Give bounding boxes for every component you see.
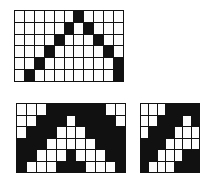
grid-cell [86,104,95,115]
grid-cell [15,35,24,46]
grid-cell [15,46,24,57]
grid-cell [141,139,148,150]
grid-cell [166,116,173,127]
grid-cell [55,23,64,34]
grid-cell [114,58,123,69]
grid-cell [158,150,165,161]
grid-cell [116,162,125,173]
grid-cell [141,116,148,127]
grid-cell [175,116,182,127]
grid-cell [67,150,76,161]
grid-cell [55,35,64,46]
grid-cell [45,58,54,69]
grid-cell [37,150,46,161]
grid-cell [192,162,199,173]
grid-cell [45,35,54,46]
grid-cell [74,46,83,57]
grid-cell [37,116,46,127]
grid-cell [104,11,113,22]
grid-cell [25,46,34,57]
pixel-grid-figure [0,0,213,183]
grid-cell [175,162,182,173]
grid-cell [67,104,76,115]
grid-cell [104,35,113,46]
grid-cell [84,58,93,69]
grid-cell [175,104,182,115]
grid-cell [76,127,85,138]
grid-cell [104,58,113,69]
grid-cell [65,35,74,46]
grid-cell [141,162,148,173]
grid-cell [35,46,44,57]
grid-cell [57,150,66,161]
grid-cell [67,162,76,173]
grid-cell [47,116,56,127]
grid-cell [183,127,190,138]
grid-cell [27,150,36,161]
grid-cell [192,150,199,161]
grid-cell [67,116,76,127]
grid-cell [57,116,66,127]
grid-cell [45,23,54,34]
grid-cell [65,58,74,69]
grid-cell [35,35,44,46]
grid-cell [104,46,113,57]
grid-cell [45,46,54,57]
grid-cell [114,46,123,57]
grid-cell [86,162,95,173]
grid-cell [94,70,103,81]
grid-cell [25,58,34,69]
grid-cell [76,139,85,150]
grid-cell [183,150,190,161]
grid-cell [37,127,46,138]
grid-cell [149,139,156,150]
grid-cell [149,162,156,173]
grid-cell [74,58,83,69]
grid-cell [35,11,44,22]
grid-cell [94,23,103,34]
grid-cell [141,104,148,115]
grid-cell [35,70,44,81]
grid-cell [84,11,93,22]
grid-cell [55,46,64,57]
grid-cell [94,11,103,22]
grid-cell [166,104,173,115]
grid-cell [76,104,85,115]
grid-cell [149,150,156,161]
grid-cell [106,104,115,115]
grid-cell [116,150,125,161]
grid-cell [57,127,66,138]
grid-cell [17,150,26,161]
grid-cell [149,116,156,127]
grid-cell [175,139,182,150]
grid-cell [74,23,83,34]
grid-cell [175,150,182,161]
grid-cell [166,139,173,150]
grid-cell [47,104,56,115]
grid-cell [67,139,76,150]
grid-cell [17,162,26,173]
grid-cell [76,162,85,173]
grid-cell [86,116,95,127]
grid-cell [183,104,190,115]
grid-cell [74,70,83,81]
grid-cell [86,150,95,161]
grid-cell [47,127,56,138]
grid-cell [158,116,165,127]
grid-cell [17,127,26,138]
grid-cell [104,23,113,34]
grid-cell [149,127,156,138]
grid-cell [114,23,123,34]
grid-cell [76,150,85,161]
grid-cell [27,116,36,127]
grid-cell [114,70,123,81]
grid-cell [76,116,85,127]
grid-cell [57,104,66,115]
grid-cell [65,46,74,57]
grid-cell [37,139,46,150]
grid-cell [86,127,95,138]
grid-cell [158,127,165,138]
grid-cell [106,116,115,127]
grid-cell [114,11,123,22]
grid-cell [96,139,105,150]
